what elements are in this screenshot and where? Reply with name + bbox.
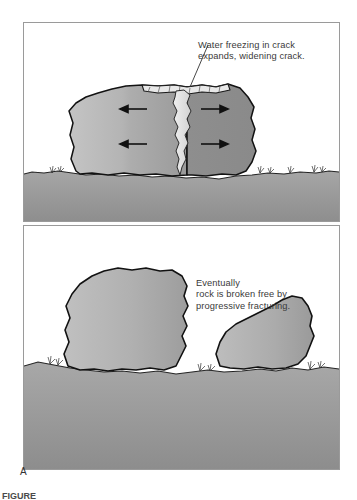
- figure-caption-clipped: FIGURE: [0, 492, 357, 500]
- ground-layer-top: [24, 171, 339, 221]
- figure-illustration: Water freezing in crack expands, widenin…: [0, 0, 357, 500]
- large-remaining-rock: [64, 268, 188, 371]
- caption-broken-rock: Eventually rock is broken free by progre…: [196, 278, 346, 312]
- panel-letter-label: A: [20, 466, 27, 477]
- caption-water-freezing: Water freezing in crack expands, widenin…: [198, 40, 348, 63]
- panel-broken-rock: [23, 225, 340, 470]
- cracked-boulder: [69, 84, 256, 176]
- figure-caption-text: FIGURE: [2, 492, 36, 500]
- grass-tufts-right-top: [258, 165, 326, 173]
- ground-layer-bottom: [24, 362, 339, 469]
- panel-bottom-artwork: [24, 226, 339, 469]
